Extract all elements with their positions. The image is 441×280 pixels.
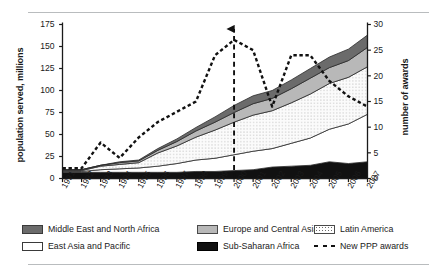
- y-axis-left-title: population served, millions: [15, 25, 25, 185]
- eap-swatch: [22, 242, 43, 251]
- legend-item[interactable]: East Asia and Pacific: [22, 241, 130, 251]
- y-right-tick-label: 15: [374, 96, 400, 106]
- mena-swatch: [22, 225, 43, 234]
- y-right-tick-label: 30: [374, 19, 400, 29]
- figure-root: population served, millions number of aw…: [0, 0, 441, 280]
- legend-item[interactable]: Latin America: [314, 224, 393, 234]
- legend-item-label: Latin America: [340, 224, 393, 234]
- legend-item-label: Europe and Central Asia: [223, 224, 318, 234]
- legend-item[interactable]: Sub-Saharan Africa: [197, 241, 299, 251]
- legend-item[interactable]: Europe and Central Asia: [197, 224, 318, 234]
- y-right-tick-label: 25: [374, 45, 400, 55]
- y-left-tick-label: 50: [29, 129, 55, 139]
- y-left-tick-label: 100: [29, 85, 55, 95]
- legend-item[interactable]: Middle East and North Africa: [22, 224, 159, 234]
- y-right-tick-label: 20: [374, 71, 400, 81]
- y-axis-right-title: number of awards: [400, 22, 410, 172]
- legend-item-label: Sub-Saharan Africa: [223, 241, 299, 251]
- series-layer: [63, 35, 368, 178]
- legend-item-label: Middle East and North Africa: [48, 224, 159, 234]
- y-right-tick-label: 10: [374, 122, 400, 132]
- y-right-tick-label: 5: [374, 148, 400, 158]
- lac-swatch: [314, 225, 335, 234]
- legend-item[interactable]: New PPP awards: [314, 241, 408, 251]
- chart-legend: Middle East and North AfricaEurope and C…: [22, 224, 434, 258]
- y-left-tick-label: 150: [29, 41, 55, 51]
- ppp-dashed-line-swatch: [314, 242, 335, 251]
- legend-item-label: New PPP awards: [340, 241, 408, 251]
- y-left-tick-label: 25: [29, 151, 55, 161]
- y-left-tick-label: 125: [29, 63, 55, 73]
- ssa-swatch: [197, 242, 218, 251]
- y-left-tick-label: 175: [29, 19, 55, 29]
- eca-swatch: [197, 225, 218, 234]
- legend-item-label: East Asia and Pacific: [48, 241, 130, 251]
- y-left-tick-label: 75: [29, 107, 55, 117]
- y-left-tick-label: 0: [29, 173, 55, 183]
